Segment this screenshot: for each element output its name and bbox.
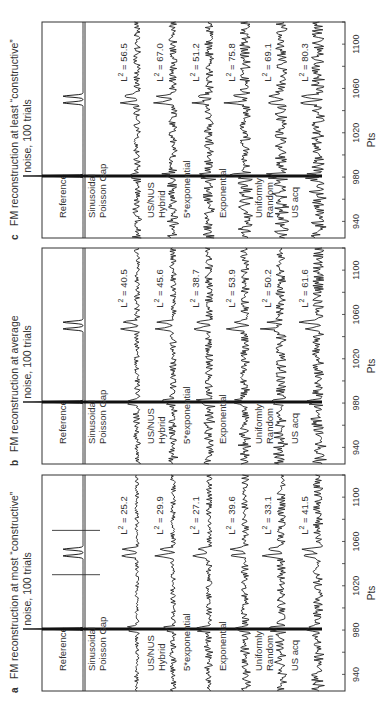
panel-title-line1: FM reconstruction at least “constructive… (8, 39, 20, 226)
panel-title: aFM reconstruction at most “constructive… (8, 491, 33, 693)
series-label: Hybrid (156, 417, 167, 444)
series-label: Hybrid (156, 644, 167, 671)
series-label: US/NUS (145, 635, 156, 671)
series-label: Sinusoidal (86, 627, 97, 671)
series-label: Exponential (217, 621, 228, 671)
series-label: Sinusoidal (86, 400, 97, 444)
panel-c: cFM reconstruction at least “constructiv… (8, 22, 377, 240)
axis-label: Pts (366, 133, 377, 147)
l2-annotation: L2 = 41.5 (298, 496, 310, 535)
axis-label: Pts (366, 359, 377, 373)
panel-a: aFM reconstruction at most “constructive… (8, 475, 377, 693)
series-label: Poisson Gap (97, 164, 108, 218)
l2-annotation: L2 = 80.3 (298, 43, 310, 82)
series-label: 5*exponential (181, 160, 192, 218)
series-label: Poisson Gap (97, 390, 108, 444)
l2-annotation: L2 = 51.2 (189, 43, 201, 82)
l2-annotation: L2 = 67.0 (153, 43, 165, 82)
l2-annotation: L2 = 75.8 (225, 43, 237, 82)
series-label: Uniformly (253, 404, 264, 444)
series-label: Uniformly (253, 631, 264, 671)
series-label: 5*exponential (181, 613, 192, 671)
tick-label: 1060 (351, 531, 361, 551)
l2-annotation: L2 = 69.1 (261, 43, 273, 82)
tick-label: 980 (351, 170, 361, 185)
tick-label: 940 (351, 667, 361, 682)
panel-letter: b (9, 460, 20, 466)
panel-title-line2: noise, 100 trials (21, 99, 33, 173)
panel-title-line1: FM reconstruction at average (8, 315, 20, 452)
series-label: Exponential (217, 394, 228, 444)
tick-label: 940 (351, 440, 361, 455)
tick-label: 940 (351, 214, 361, 229)
tick-label: 980 (351, 396, 361, 411)
tick-label: 1020 (351, 576, 361, 596)
l2-annotation: L2 = 40.5 (117, 269, 129, 308)
panel-title-line2: noise, 100 trials (21, 325, 33, 399)
panel-b: bFM reconstruction at averagenoise, 100 … (8, 248, 377, 466)
l2-annotation: L2 = 50.2 (261, 269, 273, 308)
tick-label: 1060 (351, 78, 361, 98)
series-label: US acq (289, 640, 300, 671)
l2-annotation: L2 = 56.5 (117, 43, 129, 82)
panel-letter: c (9, 234, 20, 240)
tick-label: 1020 (351, 123, 361, 143)
panel-letter: a (9, 687, 20, 693)
tick-label: 1060 (351, 304, 361, 324)
tick-label: 980 (351, 623, 361, 638)
l2-annotation: L2 = 45.6 (153, 269, 165, 308)
series-label: US acq (289, 413, 300, 444)
l2-annotation: L2 = 53.9 (225, 269, 237, 308)
tick-label: 1020 (351, 349, 361, 369)
reference-label: Reference (57, 174, 68, 218)
series-label: 5*exponential (181, 386, 192, 444)
series-label: Uniformly (253, 178, 264, 218)
tick-label: 1100 (351, 34, 361, 53)
series-label: US/NUS (145, 408, 156, 444)
series-label: Hybrid (156, 191, 167, 218)
series-label: Random (264, 408, 275, 444)
series-label: Random (264, 182, 275, 218)
l2-annotation: L2 = 27.1 (189, 496, 201, 535)
series-label: Poisson Gap (97, 617, 108, 671)
l2-annotation: L2 = 61.6 (298, 269, 310, 308)
panel-title: cFM reconstruction at least “constructiv… (8, 39, 33, 240)
series-label: Random (264, 635, 275, 671)
tick-label: 1100 (351, 487, 361, 506)
reference-label: Reference (57, 400, 68, 444)
figure-canvas: aFM reconstruction at most “constructive… (0, 0, 388, 719)
panel-title: bFM reconstruction at averagenoise, 100 … (8, 315, 33, 466)
series-label: US/NUS (145, 182, 156, 218)
l2-annotation: L2 = 25.2 (117, 496, 129, 535)
series-label: Sinusoidal (86, 174, 97, 218)
tick-label: 1100 (351, 260, 361, 279)
axis-label: Pts (366, 586, 377, 600)
panel-title-line2: noise, 100 trials (21, 552, 33, 626)
panel-title-line1: FM reconstruction at most “constructive” (8, 491, 20, 679)
l2-annotation: L2 = 39.6 (225, 496, 237, 535)
l2-annotation: L2 = 29.9 (153, 496, 165, 535)
series-label: US acq (289, 187, 300, 218)
series-label: Exponential (217, 168, 228, 218)
l2-annotation: L2 = 33.1 (261, 496, 273, 535)
l2-annotation: L2 = 38.7 (189, 269, 201, 308)
reference-label: Reference (57, 627, 68, 671)
